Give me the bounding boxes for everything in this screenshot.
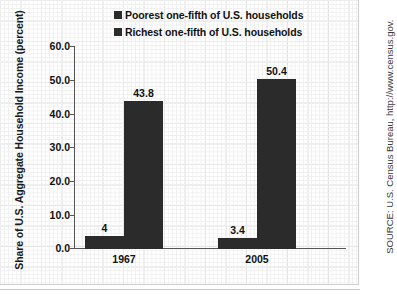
y-tick-label-30: 30.0	[26, 142, 70, 153]
bar-value-label-richest-2005: 50.4	[257, 66, 296, 77]
y-tick-label-10: 10.0	[26, 210, 70, 221]
legend-label-richest: Richest one-fifth of U.S. households	[125, 26, 302, 38]
source-note: SOURCE: U.S. Census Bureau, http://www.c…	[384, 20, 395, 282]
chart-screenshot: Share of U.S. Aggregate Household Income…	[0, 0, 397, 294]
y-tick-label-20: 20.0	[26, 176, 70, 187]
y-tick-label-50: 50.0	[26, 75, 70, 86]
bottom-divider	[0, 289, 360, 290]
legend-item-richest: Richest one-fifth of U.S. households	[114, 24, 303, 39]
bar-value-label-richest-1967: 43.8	[124, 88, 163, 99]
y-tick-label-40: 40.0	[26, 109, 70, 120]
bar-richest-2005	[257, 79, 296, 250]
legend-swatch-poorest-icon	[114, 11, 122, 19]
bar-poorest-1967	[85, 236, 124, 250]
legend-item-poorest: Poorest one-fifth of U.S. households	[114, 7, 303, 22]
chart-legend: Poorest one-fifth of U.S. households Ric…	[114, 7, 303, 41]
bar-richest-1967	[124, 101, 163, 249]
plot-area	[74, 46, 346, 249]
bar-poorest-2005	[218, 238, 257, 250]
bar-value-label-poorest-1967: 4	[85, 223, 124, 234]
legend-swatch-richest-icon	[114, 28, 122, 36]
y-tick-label-0: 0.0	[26, 243, 70, 254]
y-tick-label-60: 60.0	[26, 41, 70, 52]
x-group-label-2005: 2005	[218, 253, 296, 265]
legend-label-poorest: Poorest one-fifth of U.S. households	[125, 9, 303, 21]
bar-value-label-poorest-2005: 3.4	[218, 225, 257, 236]
x-group-label-1967: 1967	[85, 253, 163, 265]
